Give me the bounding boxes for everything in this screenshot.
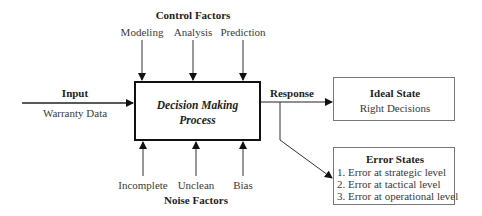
noise-item-incomplete: Incomplete [118,179,167,192]
control-item-analysis: Analysis [174,26,213,39]
process-label-line1: Decision Making [136,98,259,113]
error-states-title: Error States [366,153,424,166]
control-factors-title: Control Factors [156,9,231,22]
error-item-operational: 3. Error at operational level [337,190,458,203]
ideal-state-box: Ideal State Right Decisions [333,77,455,121]
noise-item-bias: Bias [233,179,253,192]
arrow-response-error [280,102,332,178]
response-label: Response [270,87,314,100]
error-states-box: Error States 1. Error at strategic level… [333,147,455,205]
input-subtitle: Warranty Data [43,107,107,120]
control-item-prediction: Prediction [220,26,265,39]
decision-making-process-box: Decision Making Process [134,81,261,141]
process-label-line2: Process [136,113,259,128]
noise-factors-title: Noise Factors [164,194,228,207]
ideal-state-subtitle: Right Decisions [360,102,431,115]
input-title: Input [62,87,88,100]
noise-item-unclean: Unclean [178,179,215,192]
ideal-state-title: Ideal State [370,87,420,100]
control-item-modeling: Modeling [121,26,164,39]
